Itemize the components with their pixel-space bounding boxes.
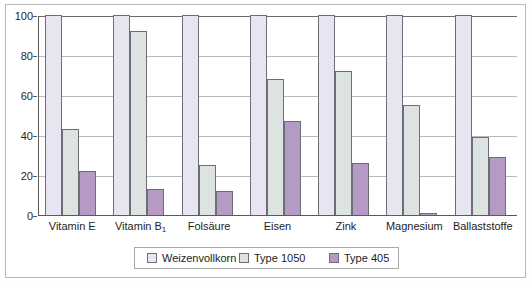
legend-item-1: Type 1050 bbox=[239, 252, 305, 264]
legend-item-0: Weizenvollkorn bbox=[147, 252, 236, 264]
x-axis-label-0: Vitamin E bbox=[38, 218, 106, 234]
bar-2-0 bbox=[182, 15, 199, 215]
y-tick-label-0: 0 bbox=[3, 210, 33, 222]
bar-5-2 bbox=[420, 213, 437, 215]
y-tick-mark-100 bbox=[33, 16, 37, 17]
bar-3-0 bbox=[250, 15, 267, 215]
legend-swatch-icon-1 bbox=[239, 253, 249, 263]
legend-swatch-icon-0 bbox=[147, 253, 157, 263]
y-tick-label-100: 100 bbox=[3, 10, 33, 22]
bar-chart-figure: 020406080100 Vitamin EVitamin B1Folsäure… bbox=[0, 0, 531, 283]
bar-0-1 bbox=[62, 129, 79, 215]
bar-group-5 bbox=[380, 16, 448, 215]
x-axis-label-1: Vitamin B1 bbox=[106, 218, 174, 234]
y-tick-mark-60 bbox=[33, 96, 37, 97]
bar-3-2 bbox=[284, 121, 301, 215]
bar-group-6 bbox=[449, 16, 517, 215]
bar-group-0 bbox=[39, 16, 107, 215]
bar-group-4 bbox=[312, 16, 380, 215]
x-axis-labels: Vitamin EVitamin B1FolsäureEisenZinkMagn… bbox=[38, 218, 517, 234]
bar-4-2 bbox=[352, 163, 369, 215]
x-axis-label-2: Folsäure bbox=[175, 218, 243, 234]
y-tick-mark-80 bbox=[33, 56, 37, 57]
y-tick-label-20: 20 bbox=[3, 170, 33, 182]
y-tick-label-40: 40 bbox=[3, 130, 33, 142]
x-axis-label-5: Magnesium bbox=[380, 218, 448, 234]
bar-6-2 bbox=[489, 157, 506, 215]
y-axis-labels: 020406080100 bbox=[0, 16, 33, 216]
legend-label-0: Weizenvollkorn bbox=[162, 252, 236, 264]
bar-6-0 bbox=[455, 15, 472, 215]
bar-1-1 bbox=[130, 31, 147, 215]
x-axis-label-6: Ballaststoffe bbox=[449, 218, 517, 234]
y-tick-label-80: 80 bbox=[3, 50, 33, 62]
bar-1-2 bbox=[147, 189, 164, 215]
bar-0-0 bbox=[45, 15, 62, 215]
bar-5-0 bbox=[386, 15, 403, 215]
bar-6-1 bbox=[472, 137, 489, 215]
bar-4-1 bbox=[335, 71, 352, 215]
legend-label-2: Type 405 bbox=[344, 252, 389, 264]
bar-4-0 bbox=[318, 15, 335, 215]
bar-2-2 bbox=[216, 191, 233, 215]
y-tick-mark-20 bbox=[33, 176, 37, 177]
bar-1-0 bbox=[113, 15, 130, 215]
x-axis-label-3: Eisen bbox=[243, 218, 311, 234]
legend-item-2: Type 405 bbox=[329, 252, 389, 264]
legend-swatch-icon-2 bbox=[329, 253, 339, 263]
y-tick-mark-40 bbox=[33, 136, 37, 137]
plot-area bbox=[38, 16, 517, 216]
y-tick-mark-0 bbox=[33, 216, 37, 217]
y-tick-label-60: 60 bbox=[3, 90, 33, 102]
bar-group-3 bbox=[244, 16, 312, 215]
bar-3-1 bbox=[267, 79, 284, 215]
bar-0-2 bbox=[79, 171, 96, 215]
bar-5-1 bbox=[403, 105, 420, 215]
bar-group-1 bbox=[107, 16, 175, 215]
legend-label-1: Type 1050 bbox=[254, 252, 305, 264]
bar-2-1 bbox=[199, 165, 216, 215]
chart-legend: WeizenvollkornType 1050Type 405 bbox=[134, 247, 399, 269]
bar-groups bbox=[39, 16, 517, 215]
x-axis-label-4: Zink bbox=[312, 218, 380, 234]
bar-group-2 bbox=[176, 16, 244, 215]
